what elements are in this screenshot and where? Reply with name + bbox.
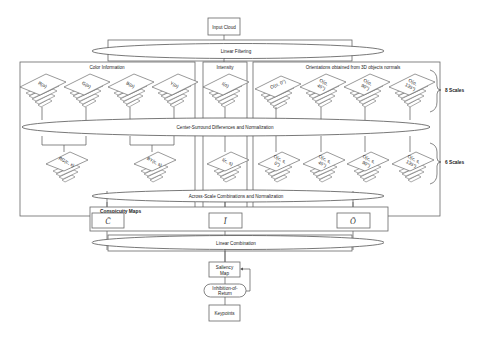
across-scale-label: Across-Scale Combinations and Normalizat… [189,194,284,199]
center-surround-node: Center-Surround Differences and Normaliz… [22,118,430,136]
saliency-pipeline-diagram: Input Cloud Linear Filtering Color Infor… [0,0,480,338]
saliency-map-label-1: Saliency [216,265,234,270]
linear-combination-node: Linear Combination [92,235,384,251]
intensity-label: Intensity [216,65,234,70]
keypoints-node: Keypoints [209,305,240,321]
orientation-conspicuity-map: Ō [350,217,356,226]
feedback-arrow-icon [240,268,243,271]
linear-combination-label: Linear Combination [216,241,256,246]
inhibition-label-2: Return [218,291,232,296]
orientation-label: Orientations obtained from 3D objects no… [306,65,401,70]
color-conspicuity-map: C̄ [105,217,111,226]
color-information-label: Color Information [89,65,125,70]
inhibition-label-1: Inhibition-of- [212,286,238,291]
linear-filtering-node: Linear Filtering [92,40,384,61]
center-surround-label: Center-Surround Differences and Normaliz… [177,125,274,130]
saliency-map-node: Saliency Map [209,262,240,277]
input-cloud-label: Input Cloud [212,25,236,30]
six-scales-label: 6 Scales [445,160,465,165]
keypoints-label: Keypoints [214,311,235,316]
input-cloud-node: Input Cloud [208,18,240,35]
saliency-map-label-2: Map [220,271,229,276]
across-scale-node: Across-Scale Combinations and Normalizat… [92,190,384,202]
conspicuity-maps-group: Conspicuity Maps C̄ Ī Ō [90,202,388,262]
eight-scales-label: 8 Scales [445,88,465,93]
linear-filtering-label: Linear Filtering [221,49,252,54]
